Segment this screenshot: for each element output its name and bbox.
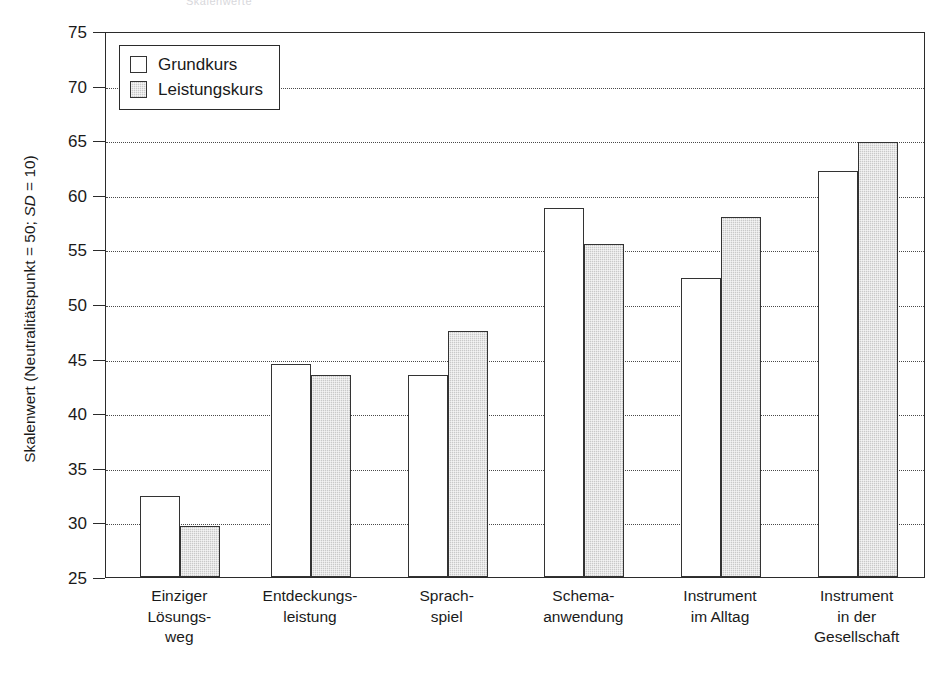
x-axis-label: Schema-anwendung (515, 586, 652, 627)
x-axis-label-line: Einziger (111, 586, 248, 607)
y-axis-tick (93, 305, 105, 306)
cropped-title-fragment: Skalenwerte (186, 0, 366, 7)
bar-grundkurs (271, 364, 311, 577)
legend-label-grundkurs: Grundkurs (158, 56, 237, 73)
x-axis-label-line: im Alltag (652, 607, 789, 628)
bar-leistungskurs (448, 331, 488, 577)
y-axis-title: Skalenwert (Neutralitätspunkt = 50; SD =… (21, 49, 39, 569)
y-axis-tick-label: 40 (47, 406, 87, 423)
x-axis-label-line: anwendung (515, 607, 652, 628)
plot-area: Grundkurs Leistungskurs (105, 32, 925, 578)
x-axis-label-line: Sprach- (378, 586, 515, 607)
y-axis-tick-label: 25 (47, 570, 87, 587)
bar-leistungskurs (584, 244, 624, 577)
legend-item: Grundkurs (130, 52, 263, 77)
y-axis-tick-label: 50 (47, 297, 87, 314)
x-axis-label-line: Schema- (515, 586, 652, 607)
legend-swatch-grundkurs (130, 56, 147, 73)
bar-leistungskurs (858, 142, 898, 577)
bar-series-layer (106, 33, 924, 577)
y-axis-tick-label: 55 (47, 242, 87, 259)
bar-grundkurs (408, 375, 448, 577)
bar-leistungskurs (311, 375, 351, 577)
y-axis-tick-label: 70 (47, 79, 87, 96)
y-axis-tick (93, 32, 105, 33)
x-axis-label-line: in der (788, 607, 925, 628)
x-axis-label: Instrumentin derGesellschaft (788, 586, 925, 648)
bar-leistungskurs (180, 526, 220, 577)
legend: Grundkurs Leistungskurs (119, 45, 280, 110)
x-axis-label-line: spiel (378, 607, 515, 628)
x-axis-label-line: weg (111, 627, 248, 648)
x-axis-label: Sprach-spiel (378, 586, 515, 627)
y-axis-tick-label: 65 (47, 133, 87, 150)
y-axis-tick (93, 87, 105, 88)
x-axis-label-line: Entdeckungs- (242, 586, 379, 607)
y-axis-tick (93, 578, 105, 579)
x-axis-labels: EinzigerLösungs-wegEntdeckungs-leistungS… (105, 586, 925, 681)
y-axis-title-post: = 10) (21, 155, 38, 195)
chart-page: Skalenwerte Skalenwert (Neutralitätspunk… (0, 0, 952, 683)
y-axis-tick-label: 45 (47, 352, 87, 369)
bar-leistungskurs (721, 217, 761, 577)
x-axis-label-line: leistung (242, 607, 379, 628)
y-axis-tick (93, 469, 105, 470)
legend-swatch-leistungskurs (130, 81, 147, 98)
y-axis-tick (93, 414, 105, 415)
y-axis-tick (93, 360, 105, 361)
bar-grundkurs (681, 278, 721, 577)
y-axis-tick-label: 35 (47, 461, 87, 478)
y-axis-tick-label: 60 (47, 188, 87, 205)
bar-grundkurs (140, 496, 180, 577)
y-axis-title-pre: Skalenwert (Neutralitätspunkt = 50; (21, 217, 38, 463)
y-axis-tick (93, 523, 105, 524)
x-axis-label-line: Instrument (652, 586, 789, 607)
x-axis-label: Instrumentim Alltag (652, 586, 789, 627)
y-axis-tick-label: 30 (47, 515, 87, 532)
x-axis-label-line: Lösungs- (111, 607, 248, 628)
y-axis-tick-label: 75 (47, 24, 87, 41)
y-axis-tick (93, 196, 105, 197)
legend-label-leistungskurs: Leistungskurs (158, 81, 263, 98)
y-axis-title-italic: SD (21, 195, 38, 217)
bar-grundkurs (818, 171, 858, 577)
bar-grundkurs (544, 208, 584, 577)
x-axis-label: EinzigerLösungs-weg (111, 586, 248, 648)
x-axis-label: Entdeckungs-leistung (242, 586, 379, 627)
y-axis-tick (93, 250, 105, 251)
y-axis-tick (93, 141, 105, 142)
legend-item: Leistungskurs (130, 77, 263, 102)
x-axis-label-line: Gesellschaft (788, 627, 925, 648)
x-axis-label-line: Instrument (788, 586, 925, 607)
